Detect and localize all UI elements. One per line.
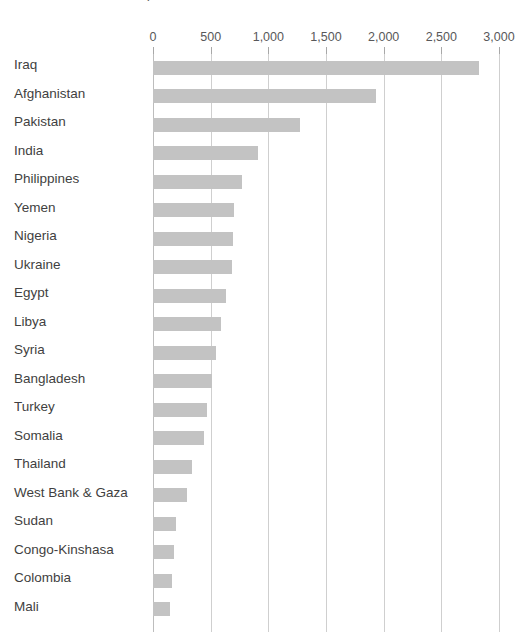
x-axis-tick-label: 500 bbox=[200, 30, 221, 44]
category-label: India bbox=[14, 143, 43, 159]
category-label: Congo-Kinshasa bbox=[14, 542, 114, 558]
x-axis-tick-mark bbox=[499, 47, 500, 54]
bar-row: Nigeria bbox=[0, 225, 522, 254]
bar-row: Syria bbox=[0, 339, 522, 368]
bar-row: Iraq bbox=[0, 54, 522, 83]
category-label: Afghanistan bbox=[14, 86, 85, 102]
bar-row: Libya bbox=[0, 311, 522, 340]
category-label: Philippines bbox=[14, 171, 79, 187]
bar-row: Congo-Kinshasa bbox=[0, 539, 522, 568]
bar bbox=[153, 545, 174, 559]
category-label: Nigeria bbox=[14, 228, 57, 244]
category-label: Thailand bbox=[14, 456, 66, 472]
category-label: Libya bbox=[14, 314, 46, 330]
x-axis-tick-label: 3,000 bbox=[483, 30, 514, 44]
bar bbox=[153, 61, 479, 75]
category-label: Egypt bbox=[14, 285, 49, 301]
category-label: Syria bbox=[14, 342, 45, 358]
category-label: Turkey bbox=[14, 399, 55, 415]
bar-row: Ukraine bbox=[0, 254, 522, 283]
bar-row: Turkey bbox=[0, 396, 522, 425]
x-axis-tick-mark bbox=[441, 47, 442, 54]
bar-row: Thailand bbox=[0, 453, 522, 482]
category-label: Yemen bbox=[14, 200, 56, 216]
bar-row: Mali bbox=[0, 596, 522, 625]
category-label: Iraq bbox=[14, 57, 37, 73]
x-axis-tick-label: 0 bbox=[150, 30, 157, 44]
bar bbox=[153, 431, 204, 445]
bar bbox=[153, 488, 187, 502]
bar bbox=[153, 175, 242, 189]
bar-row: Somalia bbox=[0, 425, 522, 454]
category-label: Mali bbox=[14, 599, 39, 615]
bar-row: Egypt bbox=[0, 282, 522, 311]
category-label: Colombia bbox=[14, 570, 71, 586]
bar-row: Bangladesh bbox=[0, 368, 522, 397]
bar-row: Afghanistan bbox=[0, 83, 522, 112]
x-axis-tick-label: 1,500 bbox=[310, 30, 341, 44]
bar bbox=[153, 232, 233, 246]
x-axis-tick-mark bbox=[268, 47, 269, 54]
x-axis-tick-labels: 05001,0001,5002,0002,5003,000 bbox=[0, 30, 522, 46]
bar-row: Philippines bbox=[0, 168, 522, 197]
category-label: Sudan bbox=[14, 513, 53, 529]
x-axis-tick-mark bbox=[384, 47, 385, 54]
bar-row: West Bank & Gaza bbox=[0, 482, 522, 511]
bar bbox=[153, 146, 258, 160]
category-label: Bangladesh bbox=[14, 371, 85, 387]
bar bbox=[153, 517, 176, 531]
category-label: West Bank & Gaza bbox=[14, 485, 128, 501]
plot-area: IraqAfghanistanPakistanIndiaPhilippinesY… bbox=[0, 54, 522, 632]
bar bbox=[153, 89, 376, 103]
bar-row: Yemen bbox=[0, 197, 522, 226]
bar bbox=[153, 374, 212, 388]
bar bbox=[153, 460, 192, 474]
bar bbox=[153, 203, 234, 217]
bar-chart: Number of incidents, 20xx 05001,0001,500… bbox=[0, 0, 522, 632]
bar-row: Pakistan bbox=[0, 111, 522, 140]
bar bbox=[153, 118, 300, 132]
x-axis-tick-mark bbox=[153, 47, 154, 54]
bar bbox=[153, 260, 232, 274]
category-label: Somalia bbox=[14, 428, 63, 444]
category-label: Ukraine bbox=[14, 257, 61, 273]
bar bbox=[153, 602, 170, 616]
bar-row: Sudan bbox=[0, 510, 522, 539]
bar bbox=[153, 317, 221, 331]
x-axis-tick-mark bbox=[326, 47, 327, 54]
bar bbox=[153, 289, 226, 303]
bar bbox=[153, 403, 207, 417]
x-axis-tick-label: 2,000 bbox=[368, 30, 399, 44]
bar bbox=[153, 574, 172, 588]
x-axis-tick-label: 1,000 bbox=[253, 30, 284, 44]
category-label: Pakistan bbox=[14, 114, 66, 130]
bar-row: Colombia bbox=[0, 567, 522, 596]
x-axis-tick-label: 2,500 bbox=[426, 30, 457, 44]
bar bbox=[153, 346, 216, 360]
bar-row: India bbox=[0, 140, 522, 169]
x-axis-tick-mark bbox=[211, 47, 212, 54]
page-title: Number of incidents, 20xx bbox=[14, 0, 185, 2]
